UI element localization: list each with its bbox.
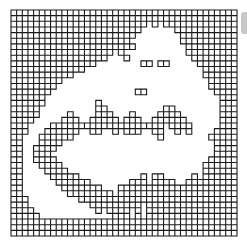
cropped-adjacent-figure-edge [241,12,247,34]
lattice-diagram [0,0,247,251]
